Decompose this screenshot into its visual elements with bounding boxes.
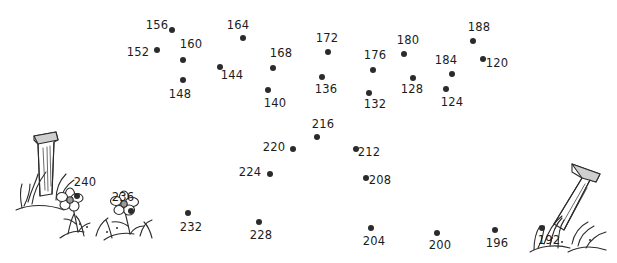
puzzle-dot[interactable] <box>492 227 498 233</box>
puzzle-dot[interactable] <box>180 57 186 63</box>
puzzle-dot[interactable] <box>180 77 186 83</box>
dot-number-label: 148 <box>169 87 192 101</box>
puzzle-dot[interactable] <box>240 35 246 41</box>
dot-number-label: 184 <box>435 53 458 67</box>
dot-number-label: 144 <box>221 68 244 82</box>
dot-number-label: 160 <box>180 37 203 51</box>
puzzle-dot[interactable] <box>443 86 449 92</box>
dot-number-label: 156 <box>146 18 169 32</box>
dot-number-label: 136 <box>315 82 338 96</box>
dot-number-label: 196 <box>486 236 509 250</box>
dot-number-label: 192 <box>538 233 561 247</box>
puzzle-dot[interactable] <box>470 38 476 44</box>
puzzle-dot[interactable] <box>265 87 271 93</box>
dot-number-label: 224 <box>239 165 262 179</box>
puzzle-dot[interactable] <box>319 74 325 80</box>
dot-number-label: 228 <box>250 228 273 242</box>
puzzle-dot[interactable] <box>185 210 191 216</box>
puzzle-dot[interactable] <box>368 225 374 231</box>
dot-number-label: 220 <box>263 140 286 154</box>
fence-post-with-grass <box>528 160 617 263</box>
puzzle-dot[interactable] <box>169 27 175 33</box>
dot-number-label: 120 <box>486 56 509 70</box>
dot-number-label: 200 <box>429 238 452 252</box>
puzzle-dot[interactable] <box>270 65 276 71</box>
puzzle-dot[interactable] <box>434 230 440 236</box>
puzzle-dot[interactable] <box>154 47 160 53</box>
dot-number-label: 240 <box>74 175 97 189</box>
dot-number-label: 212 <box>358 145 381 159</box>
puzzle-dot[interactable] <box>128 208 134 214</box>
dot-number-label: 140 <box>264 96 287 110</box>
puzzle-dot[interactable] <box>267 171 273 177</box>
dot-number-label: 124 <box>441 95 464 109</box>
puzzle-dot[interactable] <box>449 71 455 77</box>
puzzle-dot[interactable] <box>410 75 416 81</box>
dot-number-label: 180 <box>397 33 420 47</box>
dot-number-label: 236 <box>112 190 135 204</box>
dot-number-label: 152 <box>127 45 150 59</box>
dot-number-label: 216 <box>312 117 335 131</box>
dot-number-label: 172 <box>316 31 339 45</box>
dot-number-label: 188 <box>468 20 491 34</box>
puzzle-dot[interactable] <box>539 225 545 231</box>
dot-number-label: 128 <box>401 82 424 96</box>
puzzle-dot[interactable] <box>314 134 320 140</box>
dot-number-label: 208 <box>369 173 392 187</box>
dot-number-label: 232 <box>180 220 203 234</box>
fence-post-with-flowers-and-grass <box>12 128 182 252</box>
dot-number-label: 204 <box>363 234 386 248</box>
puzzle-dot[interactable] <box>366 90 372 96</box>
dot-number-label: 176 <box>364 48 387 62</box>
puzzle-dot[interactable] <box>290 146 296 152</box>
puzzle-dot[interactable] <box>325 49 331 55</box>
puzzle-dot[interactable] <box>74 193 80 199</box>
dot-number-label: 164 <box>227 18 250 32</box>
dot-number-label: 132 <box>364 97 387 111</box>
puzzle-dot[interactable] <box>256 219 262 225</box>
dot-number-label: 168 <box>270 46 293 60</box>
puzzle-canvas: 1561521601481641441681721761801881841201… <box>0 0 617 263</box>
puzzle-dot[interactable] <box>401 51 407 57</box>
puzzle-dot[interactable] <box>370 67 376 73</box>
